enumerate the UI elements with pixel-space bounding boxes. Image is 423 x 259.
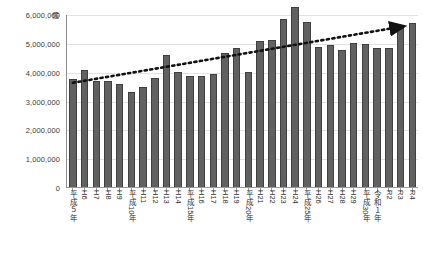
bar-slot — [149, 15, 161, 188]
x-slot: H13 — [161, 190, 173, 256]
x-slot: 平成５年 — [67, 190, 79, 256]
x-tick-label: H17 — [210, 190, 218, 204]
bar-slot — [79, 15, 91, 188]
y-tick-label: 2,000,000 — [26, 126, 60, 135]
x-slot: H26 — [313, 190, 325, 256]
bar — [104, 81, 111, 188]
x-slot: H18 — [219, 190, 231, 256]
bar — [245, 72, 252, 188]
bar — [210, 74, 217, 188]
x-slot: H9 — [114, 190, 126, 256]
y-axis-tick-labels: 01,000,0002,000,0003,000,0004,000,0005,0… — [0, 15, 64, 188]
x-slot: H27 — [324, 190, 336, 256]
bar-slot — [324, 15, 336, 188]
x-slot: 平成30年 — [360, 190, 372, 256]
x-tick-label: H12 — [151, 190, 159, 204]
x-slot: H16 — [196, 190, 208, 256]
x-slot: 平成15年 — [184, 190, 196, 256]
bar — [128, 92, 135, 188]
bar — [69, 79, 76, 188]
x-slot: H28 — [336, 190, 348, 256]
x-slot: H29 — [348, 190, 360, 256]
x-tick-label: R2 — [385, 190, 393, 200]
x-tick-label: H29 — [350, 190, 358, 204]
y-tick-label: 3,000,000 — [26, 97, 60, 106]
x-slot: H12 — [149, 190, 161, 256]
x-slot: H8 — [102, 190, 114, 256]
bar-slot — [266, 15, 278, 188]
bar-slot — [102, 15, 114, 188]
bar-slot — [371, 15, 383, 188]
x-tick-label: H24 — [291, 190, 299, 204]
bar — [291, 7, 298, 188]
x-tick-label: H28 — [338, 190, 346, 204]
bar-slot — [406, 15, 418, 188]
bar-slot — [360, 15, 372, 188]
bar-chart: 億 01,000,0002,000,0003,000,0004,000,0005… — [0, 0, 423, 259]
x-tick-label: 平成10年 — [128, 190, 136, 222]
x-tick-label: H27 — [327, 190, 335, 204]
bar-slot — [231, 15, 243, 188]
bar-slot — [395, 15, 407, 188]
bar-slot — [301, 15, 313, 188]
bar-slot — [243, 15, 255, 188]
bar — [385, 48, 392, 188]
bar — [303, 22, 310, 188]
x-tick-label: 平成20年 — [245, 190, 253, 222]
bar-slot — [172, 15, 184, 188]
bar — [233, 48, 240, 188]
bar — [362, 44, 369, 188]
x-tick-label: H19 — [233, 190, 241, 204]
bar-slot — [184, 15, 196, 188]
x-tick-label: 平成25年 — [303, 190, 311, 222]
bar — [163, 55, 170, 188]
bar-slot — [137, 15, 149, 188]
x-slot: H7 — [90, 190, 102, 256]
x-tick-label: H9 — [116, 190, 124, 200]
x-slot: R4 — [406, 190, 418, 256]
bar-slot — [254, 15, 266, 188]
x-slot: H6 — [79, 190, 91, 256]
x-tick-label: R3 — [397, 190, 405, 200]
bar — [409, 23, 416, 188]
x-slot: H24 — [289, 190, 301, 256]
x-tick-label: H6 — [81, 190, 89, 200]
bar — [198, 76, 205, 188]
bar — [221, 53, 228, 188]
x-slot: H22 — [266, 190, 278, 256]
x-slot: 平成20年 — [243, 190, 255, 256]
bar-slot — [67, 15, 79, 188]
x-tick-label: 平成15年 — [186, 190, 194, 222]
bar — [315, 47, 322, 188]
bar-slot — [336, 15, 348, 188]
x-tick-label: H23 — [280, 190, 288, 204]
x-slot: R3 — [395, 190, 407, 256]
bar — [397, 25, 404, 188]
y-tick-label: 5,000,000 — [26, 39, 60, 48]
bar-slot — [278, 15, 290, 188]
bar — [280, 19, 287, 188]
x-tick-label: 平成５年 — [69, 190, 77, 222]
x-tick-label: 平成30年 — [362, 190, 370, 222]
x-slot: 令和１年 — [371, 190, 383, 256]
x-tick-label: H21 — [256, 190, 264, 204]
bar — [338, 50, 345, 188]
x-tick-label: H22 — [268, 190, 276, 204]
y-tick-label: 6,000,000 — [26, 11, 60, 20]
bar — [174, 72, 181, 188]
bar-slot — [207, 15, 219, 188]
bar-slot — [126, 15, 138, 188]
bar-slot — [114, 15, 126, 188]
bar — [327, 45, 334, 188]
bar — [373, 48, 380, 188]
bar — [93, 81, 100, 188]
bar — [116, 84, 123, 188]
x-slot: 平成25年 — [301, 190, 313, 256]
bar-slot — [219, 15, 231, 188]
x-slot: R2 — [383, 190, 395, 256]
y-tick-label: 4,000,000 — [26, 68, 60, 77]
x-tick-label: H13 — [163, 190, 171, 204]
bar — [350, 43, 357, 188]
x-slot: H14 — [172, 190, 184, 256]
x-slot: H17 — [207, 190, 219, 256]
